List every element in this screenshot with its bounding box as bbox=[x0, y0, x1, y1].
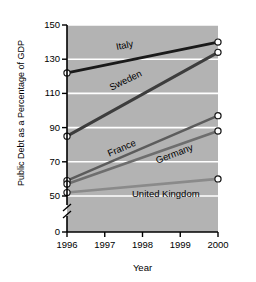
x-tick-label-1997: 1997 bbox=[87, 239, 123, 250]
chart-figure: 0507090110130150 19961997199819992000 It… bbox=[0, 0, 256, 282]
x-tick-label-1998: 1998 bbox=[125, 239, 161, 250]
data-point-france-end bbox=[215, 113, 221, 119]
x-tick-label-1996: 1996 bbox=[49, 239, 85, 250]
series-label-united-kingdom: United Kingdom bbox=[132, 188, 200, 199]
y-axis-title: Public Debt as a Percentage of GDP bbox=[16, 6, 26, 220]
y-tick-label-50: 50 bbox=[34, 191, 60, 200]
x-tick-label-2000: 2000 bbox=[200, 239, 236, 250]
data-point-sweden-end bbox=[215, 49, 221, 55]
x-axis-title: Year bbox=[67, 262, 218, 273]
y-tick-label-0: 0 bbox=[34, 227, 60, 236]
y-tick-label-90: 90 bbox=[34, 123, 60, 132]
data-point-united-kingdom-end bbox=[215, 176, 221, 182]
data-point-italy-end bbox=[215, 39, 221, 45]
y-tick-label-110: 110 bbox=[34, 88, 60, 97]
data-point-germany-end bbox=[215, 128, 221, 134]
y-tick-label-130: 130 bbox=[34, 54, 60, 63]
x-tick-label-1999: 1999 bbox=[162, 239, 198, 250]
y-tick-label-150: 150 bbox=[34, 20, 60, 29]
y-tick-label-70: 70 bbox=[34, 157, 60, 166]
